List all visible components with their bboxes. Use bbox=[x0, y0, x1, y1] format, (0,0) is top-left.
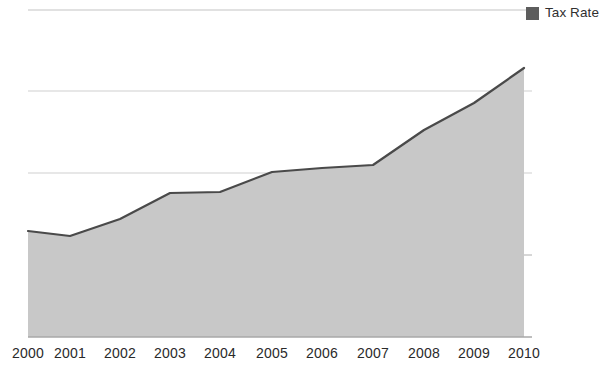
chart-container: Tax Rate 2000 2001 2002 2003 2004 2005 2… bbox=[0, 0, 605, 383]
legend-label-tax-rate: Tax Rate bbox=[545, 6, 599, 20]
x-tick-2006: 2006 bbox=[306, 344, 338, 362]
x-tick-2007: 2007 bbox=[357, 344, 389, 362]
x-tick-2001: 2001 bbox=[54, 344, 86, 362]
series-tax-rate bbox=[28, 68, 524, 337]
legend-swatch-icon bbox=[526, 7, 539, 20]
area-chart-plot bbox=[0, 0, 605, 383]
area-fill-tax-rate bbox=[28, 68, 524, 337]
x-tick-2005: 2005 bbox=[256, 344, 288, 362]
x-tick-2008: 2008 bbox=[408, 344, 440, 362]
x-axis-tick-labels: 2000 2001 2002 2003 2004 2005 2006 2007 … bbox=[0, 344, 605, 366]
x-tick-2000: 2000 bbox=[12, 344, 44, 362]
x-tick-2010: 2010 bbox=[508, 344, 540, 362]
x-tick-2003: 2003 bbox=[154, 344, 186, 362]
x-tick-2004: 2004 bbox=[204, 344, 236, 362]
chart-legend: Tax Rate bbox=[526, 5, 599, 21]
x-tick-2009: 2009 bbox=[458, 344, 490, 362]
x-tick-2002: 2002 bbox=[104, 344, 136, 362]
